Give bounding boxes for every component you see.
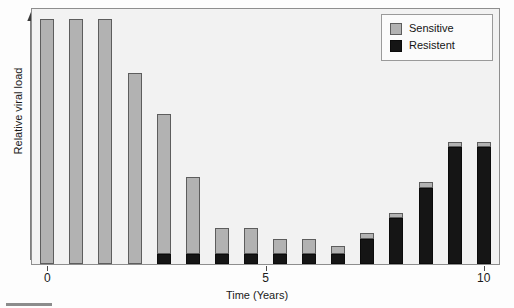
legend-item-resistent: Resistent xyxy=(390,37,486,54)
scan-edge-mark xyxy=(6,303,52,306)
bar-segment-resistent xyxy=(331,254,345,264)
bar-segment-sensitive xyxy=(244,228,258,254)
bar-segment-resistent xyxy=(157,254,171,264)
bar-segment-resistent xyxy=(244,254,258,264)
bar-segment-sensitive xyxy=(477,142,491,147)
y-axis-title: Relative viral load xyxy=(12,31,24,191)
x-tick-label-5: 5 xyxy=(246,271,286,285)
x-tick-label-10: 10 xyxy=(464,271,504,285)
bar-segment-resistent xyxy=(360,239,374,265)
bar-segment-sensitive xyxy=(186,177,200,254)
bar-segment-sensitive xyxy=(128,73,142,264)
bar-10 xyxy=(477,142,491,264)
bar-segment-sensitive xyxy=(360,233,374,238)
bar-1.3 xyxy=(98,19,112,264)
bar-segment-resistent xyxy=(389,218,403,264)
bar-6 xyxy=(302,239,316,265)
bar-segment-resistent xyxy=(273,254,287,264)
legend-label-sensitive: Sensitive xyxy=(409,22,454,35)
bar-8.7 xyxy=(419,182,433,264)
bar-7.3 xyxy=(360,233,374,264)
bar-segment-sensitive xyxy=(448,142,462,147)
bar-segment-sensitive xyxy=(157,114,171,254)
bar-segment-sensitive xyxy=(273,239,287,254)
bar-segment-sensitive xyxy=(40,19,54,264)
bar-0.7 xyxy=(69,19,83,264)
legend-swatch-sensitive-icon xyxy=(390,23,402,35)
bar-segment-resistent xyxy=(215,254,229,264)
bar-segment-sensitive xyxy=(419,182,433,187)
bar-0 xyxy=(40,19,54,264)
bar-2.7 xyxy=(157,114,171,264)
bar-2 xyxy=(128,73,142,264)
legend-item-sensitive: Sensitive xyxy=(390,20,486,37)
bar-3.3 xyxy=(186,177,200,264)
bar-segment-resistent xyxy=(448,147,462,264)
bar-segment-sensitive xyxy=(302,239,316,254)
x-tick-label-0: 0 xyxy=(27,271,67,285)
bar-segment-sensitive xyxy=(69,19,83,264)
legend-label-resistent: Resistent xyxy=(409,39,455,52)
bar-segment-resistent xyxy=(419,188,433,265)
bar-6.7 xyxy=(331,246,345,264)
bar-segment-resistent xyxy=(302,254,316,264)
bar-segment-resistent xyxy=(477,147,491,264)
bar-segment-sensitive xyxy=(98,19,112,264)
chart-figure: Relative viral load 0510 Time (Years) Se… xyxy=(0,0,514,308)
bar-8 xyxy=(389,213,403,264)
bar-5.3 xyxy=(273,239,287,265)
x-axis-title: Time (Years) xyxy=(0,289,514,301)
bar-segment-sensitive xyxy=(389,213,403,218)
bar-4.7 xyxy=(244,228,258,264)
bar-segment-sensitive xyxy=(331,246,345,254)
legend-swatch-resistent-icon xyxy=(390,40,402,52)
bar-4 xyxy=(215,228,229,264)
chart-legend: Sensitive Resistent xyxy=(381,14,493,61)
bar-segment-resistent xyxy=(186,254,200,264)
bar-9.3 xyxy=(448,142,462,264)
bar-segment-sensitive xyxy=(215,228,229,254)
